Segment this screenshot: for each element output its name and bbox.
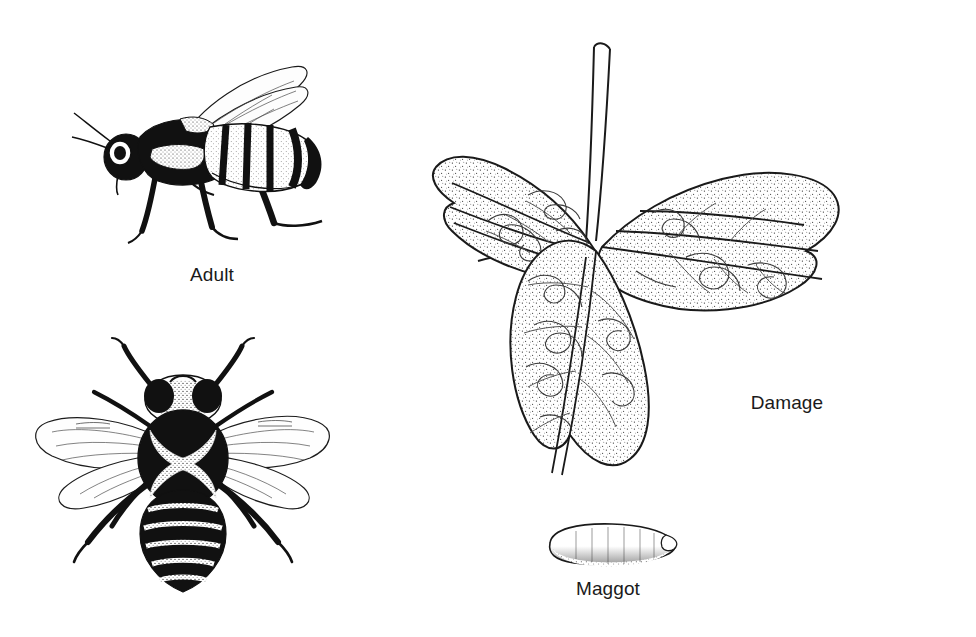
maggot-posterior-tip — [661, 535, 677, 551]
adult-dorsal-figure — [18, 330, 348, 595]
illustration-canvas: Adult — [0, 0, 976, 637]
adult-dorsal-abdomen — [140, 490, 226, 592]
caption-adult: Adult — [190, 264, 234, 286]
damage-leaf-figure — [430, 35, 950, 490]
leaflet-right — [598, 173, 839, 311]
caption-maggot: Maggot — [576, 578, 640, 600]
adult-lateral-abdomen — [204, 123, 321, 191]
caption-damage: Damage — [751, 392, 823, 414]
maggot-figure — [530, 515, 695, 575]
adult-lateral-figure — [60, 45, 370, 260]
adult-lateral-head — [72, 113, 148, 195]
